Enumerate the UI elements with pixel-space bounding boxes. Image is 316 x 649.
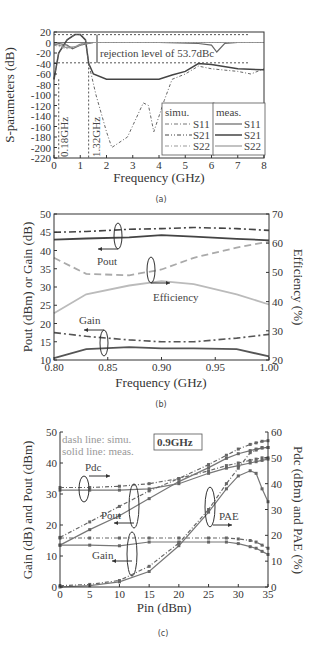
chart-c-x-label: Pin (dBm) (137, 600, 192, 615)
svg-text:Pdc: Pdc (85, 461, 102, 473)
tick-label: -220 (31, 152, 52, 164)
tick-label: 40 (271, 478, 283, 490)
chart-a-y-ticks: 200-20-40-60-80-100-120-140-160-180-200-… (31, 26, 57, 164)
tick-label: 40 (272, 296, 284, 308)
figure: 200-20-40-60-80-100-120-140-160-180-200-… (0, 0, 316, 649)
legend-simu-title: simu. (165, 106, 189, 118)
tick-label: 40 (40, 245, 52, 257)
pae-annotation: PAE (205, 487, 239, 527)
tick-label: 40 (46, 457, 58, 469)
legend-meas-s22: S22 (244, 140, 261, 152)
tick-label: 10 (114, 588, 126, 600)
svg-text:Gain: Gain (79, 314, 101, 326)
freq-0-18-annotation: 0.18GHz (58, 117, 70, 157)
tick-label: 50 (272, 266, 284, 278)
tick-label: 20 (173, 588, 185, 600)
svg-text:PAE: PAE (219, 510, 239, 522)
svg-text:Efficiency: Efficiency (153, 291, 199, 303)
tick-label: 6 (209, 159, 215, 171)
tick-label: 5 (87, 588, 93, 600)
chart-b: 504540353025201510 706050403020 0.800.85… (20, 208, 306, 409)
tick-label: 0.90 (152, 361, 172, 373)
tick-label: 1 (78, 159, 84, 171)
chart-b-y-label: Pout (dBm) or Gain (dB) (20, 222, 35, 353)
chart-b-y2-label: Efficiency (%) (291, 249, 306, 326)
chart-b-x-ticks: 0.800.850.900.951.00 (44, 357, 279, 373)
legend-dash-simu: dash line: simu. (62, 433, 132, 445)
tick-label: 35 (40, 263, 52, 275)
pdc-annotation: Pdc (79, 461, 110, 502)
tick-label: 15 (144, 588, 156, 600)
efficiency-annotation: Efficiency (147, 257, 199, 303)
tick-label: 1.00 (259, 361, 279, 373)
tick-label: 30 (40, 281, 52, 293)
tick-label: 60 (271, 426, 283, 438)
series-efficiency-simu- (54, 242, 269, 276)
series-pout-simu- (54, 228, 269, 233)
tick-label: 0 (51, 159, 57, 171)
series-pout-meas- (54, 235, 269, 240)
tick-label: 50 (271, 452, 283, 464)
svg-text:Gain: Gain (92, 549, 114, 561)
tick-label: 70 (272, 208, 284, 220)
chart-c-y-label: Gain (dB) and Pout (dBm) (20, 441, 35, 580)
chart-b-caption: (b) (155, 400, 166, 409)
tick-label: 50 (46, 426, 58, 438)
tick-label: 35 (263, 588, 275, 600)
chart-c-x-ticks: 05101520253035 (57, 584, 274, 600)
chart-a-x-ticks: 012345678 (51, 155, 267, 171)
tick-label: 30 (272, 325, 284, 337)
tick-label: 60 (272, 237, 284, 249)
chart-a-caption: (a) (155, 195, 166, 204)
tick-label: 0.85 (98, 361, 118, 373)
tick-label: 50 (40, 208, 52, 220)
tick-label: 2 (104, 159, 110, 171)
tick-label: 20 (46, 519, 58, 531)
svg-text:Pout: Pout (97, 255, 117, 267)
tick-label: 7 (235, 159, 241, 171)
tick-label: 45 (40, 226, 52, 238)
tick-label: 30 (46, 488, 58, 500)
chart-a-x-label: Frequency (GHz) (113, 170, 204, 185)
chart-c-caption: (c) (158, 629, 169, 638)
tick-label: 8 (261, 159, 267, 171)
freq-1-32-annotation: 1.32GHz (90, 117, 102, 157)
chart-c-y2-label: Pdc (dBm) and PAE (%) (291, 446, 306, 574)
tick-label: 0.95 (206, 361, 226, 373)
chart-a-y-label: S-parameters (dB) (2, 47, 17, 143)
tick-label: 25 (40, 299, 52, 311)
tick-label: 10 (271, 555, 283, 567)
legend-solid-meas: solid line: meas. (62, 445, 134, 457)
tick-label: 25 (203, 588, 215, 600)
series-gain-simu- (54, 333, 269, 342)
legend-simu-s22: S22 (193, 140, 210, 152)
series-gain-meas- (54, 347, 269, 358)
legend-meas-title: meas. (216, 106, 242, 118)
rejection-annotation: rejection level of 53.7dBc (100, 47, 214, 59)
tick-label: 30 (271, 504, 283, 516)
chart-b-x-label: Frequency (GHz) (115, 375, 206, 390)
frequency-label: 0.9GHz (157, 436, 193, 448)
svg-text:Pout: Pout (101, 509, 121, 521)
tick-label: 0.80 (44, 361, 64, 373)
tick-label: 20 (40, 318, 52, 330)
tick-label: 20 (271, 529, 283, 541)
chart-a: 200-20-40-60-80-100-120-140-160-180-200-… (2, 26, 267, 204)
tick-label: 10 (46, 550, 58, 562)
chart-a-legend: simu. meas. S11 S21 S22 S11 S21 S22 (162, 103, 265, 155)
tick-label: 15 (40, 336, 52, 348)
tick-label: 30 (233, 588, 245, 600)
tick-label: 0 (57, 588, 63, 600)
chart-c: 50403020100 6050403020100 05101520253035… (20, 426, 306, 638)
